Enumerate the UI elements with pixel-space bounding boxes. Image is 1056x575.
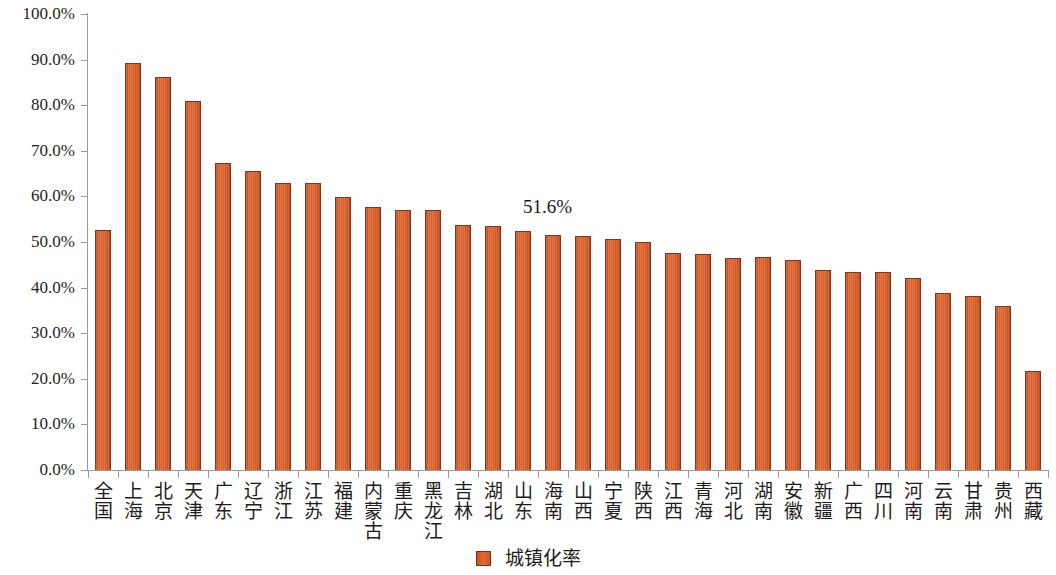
x-axis-tick-mark xyxy=(178,470,179,478)
x-axis-category-label: 甘肃 xyxy=(962,481,984,521)
x-axis-tick-mark xyxy=(358,470,359,478)
x-axis-category-label: 辽宁 xyxy=(242,481,264,521)
y-axis: 0.0%10.0%20.0%30.0%40.0%50.0%60.0%70.0%8… xyxy=(0,0,88,575)
x-axis-category-label: 湖南 xyxy=(752,481,774,521)
x-axis-tick-mark xyxy=(268,470,269,478)
bar xyxy=(215,163,231,470)
y-axis-tick-label: 70.0% xyxy=(31,142,75,160)
bar xyxy=(845,272,861,470)
x-axis-tick-mark xyxy=(688,470,689,478)
x-axis-tick-mark xyxy=(868,470,869,478)
x-axis-category-label: 西藏 xyxy=(1022,481,1044,521)
x-axis-tick-mark xyxy=(958,470,959,478)
x-axis-category-label: 重庆 xyxy=(392,481,414,521)
x-axis-category-label: 湖北 xyxy=(482,481,504,521)
bar xyxy=(305,183,321,470)
bar xyxy=(905,278,921,470)
x-axis-tick-mark xyxy=(328,470,329,478)
bar xyxy=(545,235,561,470)
bar xyxy=(395,210,411,470)
x-axis-category-label: 全国 xyxy=(92,481,114,521)
x-axis-category-label: 黑龙江 xyxy=(422,481,444,541)
x-axis-category-label: 天津 xyxy=(182,481,204,521)
y-axis-tick-label: 30.0% xyxy=(31,324,75,342)
x-axis-tick-mark xyxy=(148,470,149,478)
bar xyxy=(95,230,111,470)
plot-area xyxy=(88,14,1048,470)
x-axis-tick-mark xyxy=(658,470,659,478)
x-axis-tick-mark xyxy=(598,470,599,478)
x-axis-category-label: 江西 xyxy=(662,481,684,521)
bar xyxy=(425,210,441,470)
bar xyxy=(665,253,681,470)
legend-color-swatch xyxy=(476,551,491,566)
bar xyxy=(365,207,381,470)
bar xyxy=(185,101,201,470)
bar xyxy=(725,258,741,470)
bar xyxy=(455,225,471,470)
x-axis-category-label: 北京 xyxy=(152,481,174,521)
x-axis-tick-mark xyxy=(118,470,119,478)
y-axis-tick-label: 100.0% xyxy=(23,5,75,23)
bar xyxy=(635,242,651,470)
bar xyxy=(335,197,351,470)
x-axis-category-label: 云南 xyxy=(932,481,954,521)
bar xyxy=(245,171,261,470)
bar xyxy=(815,270,831,470)
bar xyxy=(515,231,531,470)
y-axis-tick-label: 0.0% xyxy=(40,461,75,479)
x-axis-category-label: 河南 xyxy=(902,481,924,521)
bar xyxy=(755,257,771,470)
x-axis-category-label: 上海 xyxy=(122,481,144,521)
bar xyxy=(605,239,621,470)
bar xyxy=(875,272,891,470)
x-axis-tick-mark xyxy=(538,470,539,478)
x-axis-category-label: 河北 xyxy=(722,481,744,521)
x-axis-tick-mark xyxy=(988,470,989,478)
x-axis-category-label: 广东 xyxy=(212,481,234,521)
data-point-annotation: 51.6% xyxy=(523,197,572,216)
x-axis-tick-mark xyxy=(298,470,299,478)
x-axis-tick-mark xyxy=(88,470,89,478)
x-axis-category-label: 新疆 xyxy=(812,481,834,521)
x-axis-tick-mark xyxy=(1048,470,1049,478)
bar xyxy=(155,77,171,470)
bar xyxy=(575,236,591,470)
bar xyxy=(125,63,141,470)
legend-label: 城镇化率 xyxy=(505,549,581,568)
bar xyxy=(695,254,711,470)
x-axis-tick-mark xyxy=(388,470,389,478)
x-axis-category-label: 安徽 xyxy=(782,481,804,521)
x-axis-tick-mark xyxy=(838,470,839,478)
x-axis-tick-mark xyxy=(628,470,629,478)
x-axis-tick-mark xyxy=(448,470,449,478)
bar xyxy=(995,306,1011,470)
x-axis-category-label: 宁夏 xyxy=(602,481,624,521)
y-axis-tick-label: 50.0% xyxy=(31,233,75,251)
x-axis-tick-mark xyxy=(208,470,209,478)
x-axis-category-label: 江苏 xyxy=(302,481,324,521)
x-axis-category-label: 贵州 xyxy=(992,481,1014,521)
x-axis-category-label: 内蒙古 xyxy=(362,481,384,541)
y-axis-tick-label: 60.0% xyxy=(31,187,75,205)
bar xyxy=(275,183,291,470)
x-axis-tick-mark xyxy=(568,470,569,478)
urbanization-rate-bar-chart: 0.0%10.0%20.0%30.0%40.0%50.0%60.0%70.0%8… xyxy=(0,0,1056,575)
x-axis-tick-mark xyxy=(748,470,749,478)
x-axis-category-label: 吉林 xyxy=(452,481,474,521)
x-axis-category-label: 山西 xyxy=(572,481,594,521)
y-axis-tick-label: 20.0% xyxy=(31,370,75,388)
y-axis-tick-label: 80.0% xyxy=(31,96,75,114)
x-axis-tick-mark xyxy=(478,470,479,478)
x-axis-tick-mark xyxy=(238,470,239,478)
bar xyxy=(485,226,501,470)
y-axis-tick-label: 40.0% xyxy=(31,279,75,297)
x-axis-tick-mark xyxy=(1018,470,1019,478)
x-axis-category-label: 广西 xyxy=(842,481,864,521)
bar xyxy=(785,260,801,470)
x-axis-tick-mark xyxy=(778,470,779,478)
x-axis-category-label: 山东 xyxy=(512,481,534,521)
x-axis-category-label: 海南 xyxy=(542,481,564,521)
bar xyxy=(1025,371,1041,470)
x-axis-category-label: 四川 xyxy=(872,481,894,521)
